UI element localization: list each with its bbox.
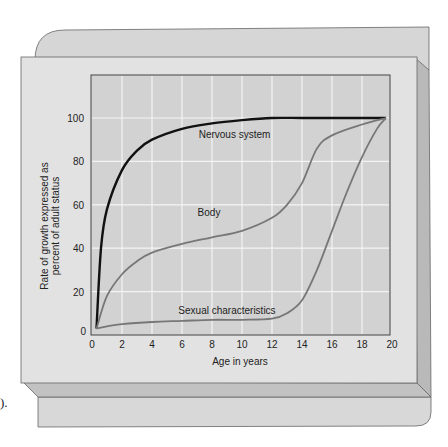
x-tick-label: 4 <box>149 339 155 350</box>
y-tick-label: 60 <box>73 200 85 211</box>
series-annotation: Body <box>198 207 221 218</box>
x-tick-label: 18 <box>356 339 368 350</box>
y-axis-title: Rate of growth expressed aspercent of ad… <box>39 162 61 289</box>
figure-panel: 02468101214161820020406080100Age in year… <box>0 0 448 447</box>
stray-caption-text: ). <box>0 395 8 411</box>
x-tick-label: 0 <box>89 339 95 350</box>
x-tick-label: 8 <box>209 339 215 350</box>
x-axis-title: Age in years <box>212 356 268 367</box>
x-tick-label: 14 <box>296 339 308 350</box>
x-tick-label: 20 <box>386 339 398 350</box>
y-tick-label: 0 <box>80 326 86 337</box>
y-tick-label: 40 <box>73 243 85 254</box>
y-tick-label: 80 <box>73 156 85 167</box>
y-tick-label: 20 <box>73 287 85 298</box>
x-tick-label: 6 <box>179 339 185 350</box>
x-tick-label: 2 <box>119 339 125 350</box>
x-tick-label: 10 <box>236 339 248 350</box>
bottom-bevel <box>23 382 431 397</box>
series-annotation: Sexual characteristics <box>178 305 275 316</box>
growth-chart: 02468101214161820020406080100Age in year… <box>0 0 448 447</box>
x-tick-label: 12 <box>266 339 278 350</box>
series-annotation: Nervous system <box>199 129 271 140</box>
y-tick-label: 100 <box>67 113 84 124</box>
x-tick-label: 16 <box>326 339 338 350</box>
bottom-plate <box>38 397 431 427</box>
